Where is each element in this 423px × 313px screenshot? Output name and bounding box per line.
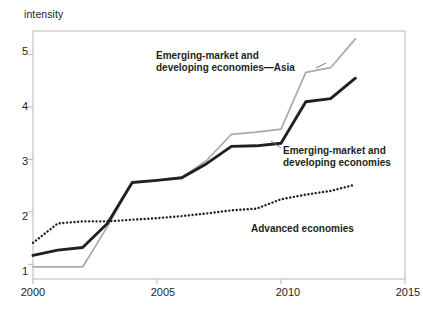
x-tick-label-2010: 2010 (268, 286, 308, 298)
annotation-emde-asia-line2: developing economies—Asia (156, 62, 295, 74)
annotation-advanced: Advanced economies (251, 223, 354, 235)
x-tick-label-2015: 2015 (388, 286, 423, 298)
y-tick-label-4: 4 (14, 100, 28, 112)
annotation-emde: Emerging-market and developing economies (283, 145, 391, 168)
y-tick-label-1: 1 (14, 265, 28, 277)
y-tick-label-3: 3 (14, 155, 28, 167)
x-tick-label-2005: 2005 (143, 286, 183, 298)
y-tick-label-5: 5 (14, 45, 28, 57)
chart-figure: intensity 5 4 3 2 1 2000 2005 2010 2015 … (0, 0, 423, 313)
y-axis-label: intensity (24, 8, 63, 20)
annotation-emde-asia-line1: Emerging-market and (156, 50, 295, 62)
annotation-advanced-line1: Advanced economies (251, 223, 354, 235)
x-tick-label-2000: 2000 (13, 286, 53, 298)
y-tick-label-2: 2 (14, 210, 28, 222)
leader-line-emde-asia (316, 63, 326, 68)
x-tick-marks (33, 279, 405, 284)
y-tick-marks (28, 55, 33, 265)
annotation-emde-asia: Emerging-market and developing economies… (156, 50, 295, 73)
annotation-emde-line2: developing economies (283, 157, 391, 169)
annotation-emde-line1: Emerging-market and (283, 145, 391, 157)
annotation-leader-lines (271, 63, 326, 148)
